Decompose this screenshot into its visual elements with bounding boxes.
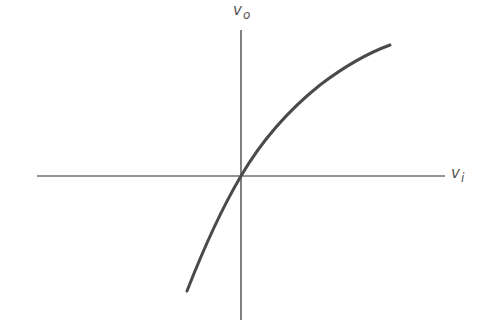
y-axis-label: vo [233, 3, 250, 18]
y-axis-label-sub: o [243, 8, 250, 22]
y-axis-label-main: v [233, 1, 242, 19]
x-axis-label: vi [451, 166, 464, 181]
x-axis-label-sub: i [461, 171, 464, 185]
transfer-characteristic-diagram: vo vi [0, 0, 489, 328]
transfer-curve [187, 45, 390, 291]
x-axis-label-main: v [451, 164, 460, 182]
